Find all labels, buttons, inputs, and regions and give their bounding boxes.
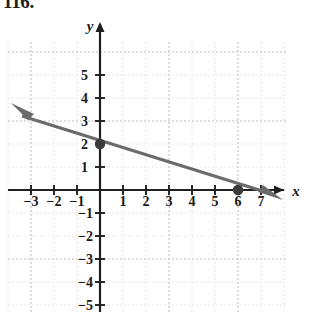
x-tick-label: −2 [47,194,62,209]
grid-horizontal-minor [8,52,288,305]
line-segment [22,116,272,194]
graph-figure: 116. [0,0,311,317]
y-tick-label: −3 [78,252,93,267]
x-tick-labels: −3 −2 −1 1 2 3 4 5 6 7 [24,194,265,209]
x-tick-label: 4 [189,194,196,209]
x-tick-label: 5 [212,194,219,209]
y-tick-label: −1 [78,206,93,221]
y-tick-label: −2 [78,229,93,244]
grid-lines [8,42,288,312]
x-axis-label: x [291,183,300,199]
point-y-intercept [95,139,105,149]
grid-vertical-minor [8,42,284,312]
x-tick-label: 1 [120,194,127,209]
y-axis-arrowhead [96,22,105,32]
x-axis-arrowhead [274,186,284,195]
x-tick-label: 2 [143,194,150,209]
y-tick-label: 5 [81,68,88,83]
grid-major [8,42,288,312]
x-tick-label: 7 [258,194,265,209]
y-tick-label: −4 [78,275,93,290]
plotted-line [11,103,283,200]
x-tick-label: −3 [24,194,39,209]
y-tick-label: 2 [81,137,88,152]
coordinate-plane-plot: y x −3 −2 −1 1 2 3 4 5 6 7 5 4 3 2 1 −1 … [0,0,311,317]
x-tick-label: 3 [166,194,173,209]
y-tick-label: 3 [81,114,88,129]
y-tick-label: 4 [81,91,88,106]
y-tick-label: 1 [81,160,88,175]
y-axis-label: y [85,18,94,34]
x-tick-label: 6 [235,194,242,209]
y-tick-label: −5 [78,298,93,313]
